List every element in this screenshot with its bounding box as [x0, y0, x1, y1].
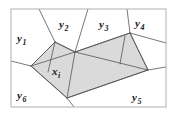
- label-y3-subscript: 3: [104, 24, 108, 33]
- voronoi-canvas: [0, 0, 177, 116]
- label-xi-subscript: i: [58, 71, 60, 80]
- label-xi-base: x: [52, 65, 58, 77]
- label-y4: y4: [135, 14, 144, 30]
- label-y2: y2: [59, 15, 68, 31]
- label-y2-subscript: 2: [64, 24, 68, 33]
- label-y6-subscript: 6: [22, 95, 26, 104]
- label-y5-subscript: 5: [137, 97, 141, 106]
- label-y1-subscript: 1: [22, 38, 26, 47]
- voronoi-figure: y1y2y3y4y5y6xi: [0, 0, 177, 116]
- label-y5: y5: [132, 88, 141, 104]
- label-y3: y3: [99, 15, 108, 31]
- label-y6: y6: [17, 86, 26, 102]
- label-y4-subscript: 4: [140, 23, 144, 32]
- label-y1: y1: [17, 29, 26, 45]
- label-xi: xi: [52, 62, 60, 78]
